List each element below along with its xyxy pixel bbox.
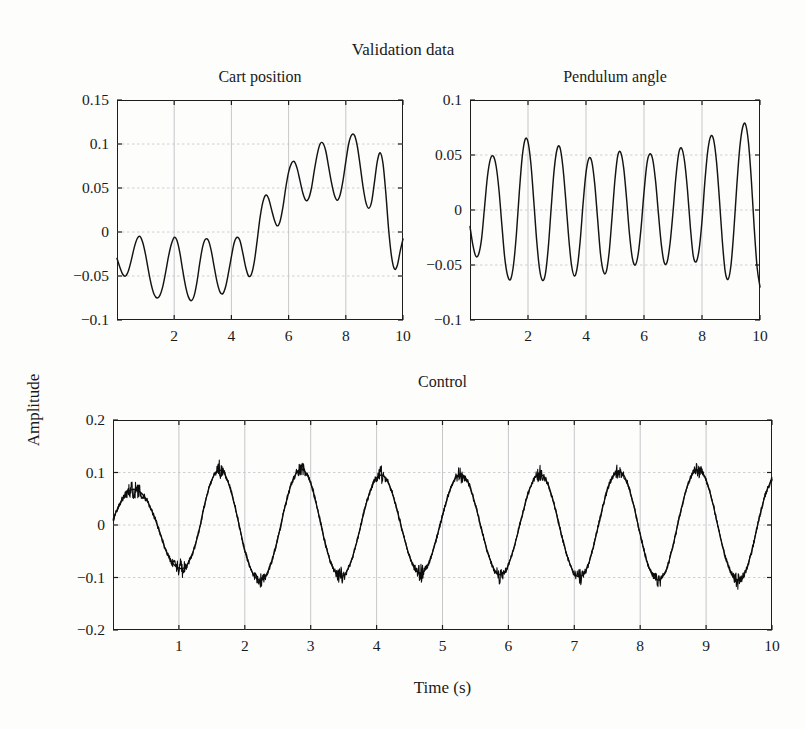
x-tick-label: 10: [764, 637, 780, 655]
x-tick-label: 6: [285, 327, 293, 345]
figure-title: Validation data: [0, 40, 806, 60]
x-axis-label: Time (s): [113, 678, 772, 698]
y-tick-label: 0.05: [31, 179, 109, 197]
y-tick-label: −0.1: [31, 311, 109, 329]
y-tick-label: −0.1: [384, 311, 462, 329]
plot-line-control: [113, 420, 774, 632]
x-tick-label: 8: [342, 327, 350, 345]
x-tick-label: 5: [439, 637, 447, 655]
x-tick-label: 4: [582, 327, 590, 345]
x-tick-label: 8: [698, 327, 706, 345]
x-tick-label: 3: [307, 637, 315, 655]
y-tick-label: 0.1: [384, 91, 462, 109]
y-tick-label: 0.1: [27, 464, 105, 482]
plot-line-cart-position: [117, 100, 405, 322]
plot-line-pendulum-angle: [470, 100, 762, 322]
x-tick-label: 1: [175, 637, 183, 655]
subplot-title-control: Control: [113, 373, 772, 391]
x-tick-label: 2: [241, 637, 249, 655]
y-tick-label: 0: [27, 516, 105, 534]
y-tick-label: −0.05: [31, 267, 109, 285]
y-tick-label: −0.1: [27, 569, 105, 587]
y-tick-label: 0.15: [31, 91, 109, 109]
y-tick-label: −0.05: [384, 256, 462, 274]
x-tick-label: 6: [505, 637, 513, 655]
x-tick-label: 4: [373, 637, 381, 655]
subplot-title-cart-position: Cart position: [117, 68, 403, 86]
x-tick-label: 8: [636, 637, 644, 655]
x-tick-label: 6: [640, 327, 648, 345]
x-tick-label: 9: [702, 637, 710, 655]
x-tick-label: 2: [170, 327, 178, 345]
y-tick-label: 0.05: [384, 146, 462, 164]
y-tick-label: 0.1: [31, 135, 109, 153]
x-tick-label: 7: [570, 637, 578, 655]
page-bleed-text: [150, 0, 570, 5]
subplot-title-pendulum-angle: Pendulum angle: [470, 68, 760, 86]
x-tick-label: 2: [524, 327, 532, 345]
y-tick-label: 0: [384, 201, 462, 219]
x-tick-label: 10: [752, 327, 768, 345]
y-tick-label: 0.2: [27, 411, 105, 429]
figure-panel: Validation data Cart position Pendulum a…: [0, 0, 806, 729]
y-tick-label: −0.2: [27, 621, 105, 639]
x-tick-label: 10: [395, 327, 411, 345]
y-tick-label: 0: [31, 223, 109, 241]
x-tick-label: 4: [228, 327, 236, 345]
